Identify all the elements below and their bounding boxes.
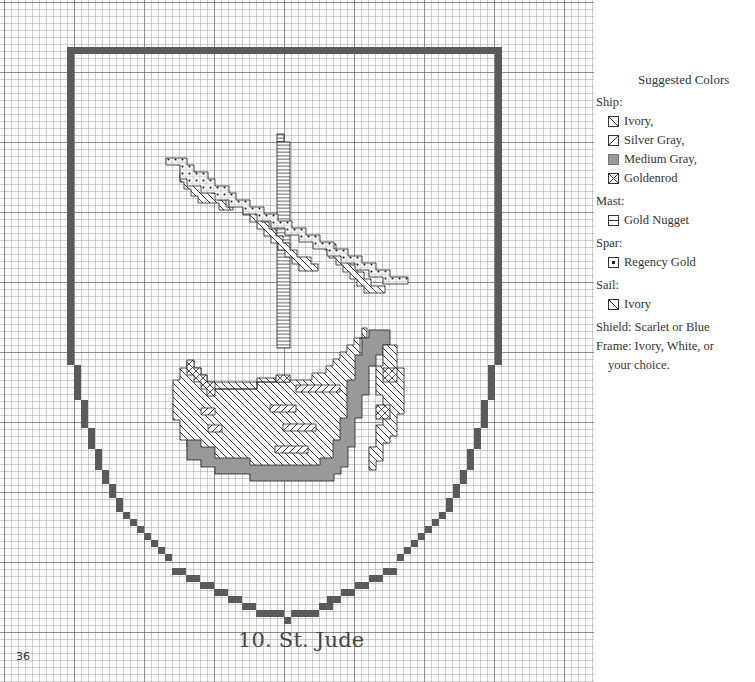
legend-heading: Suggested Colors — [596, 70, 755, 89]
horizontal-line-icon — [608, 215, 619, 226]
legend-color-name: Silver Gray, — [624, 131, 684, 150]
legend-color-name: Gold Nugget — [624, 211, 689, 230]
legend-note-shield: Shield: Scarlet or Blue — [596, 318, 755, 337]
suggested-colors-legend: Suggested Colors Ship: Ivory, Silver Gra… — [596, 70, 755, 375]
pattern-title: 10. St. Jude — [238, 628, 364, 652]
legend-item: Gold Nugget — [596, 211, 755, 230]
legend-color-name: Medium Gray, — [624, 150, 697, 169]
legend-note-frame-continuation: your choice. — [596, 356, 755, 375]
legend-group-ship: Ship: — [596, 93, 755, 112]
legend-item: Regency Gold — [596, 253, 755, 272]
legend-item: Goldenrod — [596, 169, 755, 188]
legend-note-frame: Frame: Ivory, White, or — [596, 337, 755, 356]
legend-color-name: Ivory, — [624, 112, 653, 131]
legend-group-sail: Sail: — [596, 276, 755, 295]
legend-color-name: Goldenrod — [624, 169, 677, 188]
diagonal-slash-icon — [608, 135, 619, 146]
legend-color-name: Ivory — [624, 295, 651, 314]
page-number: 36 — [16, 650, 30, 663]
crossed-square-icon — [608, 173, 619, 184]
legend-color-name: Regency Gold — [624, 253, 696, 272]
ship-hull — [173, 328, 404, 481]
diagonal-backslash-icon — [608, 116, 619, 127]
legend-item: Medium Gray, — [596, 150, 755, 169]
filled-square-icon — [608, 154, 619, 165]
legend-item: Silver Gray, — [596, 131, 755, 150]
legend-item: Ivory — [596, 295, 755, 314]
legend-group-spar: Spar: — [596, 234, 755, 253]
center-dot-icon — [608, 257, 619, 268]
legend-item: Ivory, — [596, 112, 755, 131]
diagonal-backslash-icon — [608, 299, 619, 310]
legend-group-mast: Mast: — [596, 192, 755, 211]
stitch-chart — [0, 0, 594, 682]
